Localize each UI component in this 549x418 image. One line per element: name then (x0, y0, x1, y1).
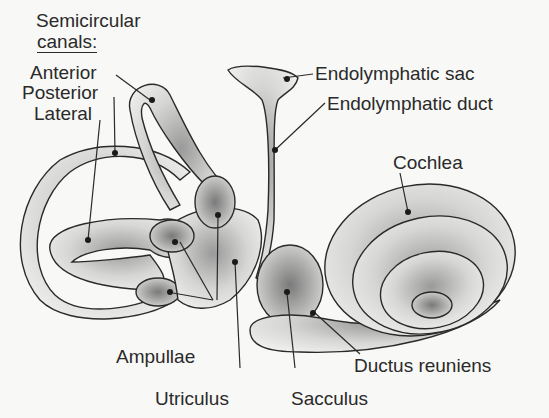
label-sacculus: Sacculus (291, 389, 368, 408)
label-cochlea: Cochlea (393, 153, 463, 172)
label-semicircular-sub: canals: (37, 32, 97, 53)
label-endolymphatic-duct: Endolymphatic duct (327, 94, 493, 113)
label-utriculus: Utriculus (155, 389, 229, 408)
label-lateral: Lateral (34, 104, 92, 123)
ampulla-lateral (150, 220, 194, 252)
label-semicircular-title: Semicircular (36, 11, 141, 30)
label-anterior: Anterior (30, 63, 97, 82)
label-posterior: Posterior (22, 83, 98, 102)
label-endolymphatic-sac: Endolymphatic sac (315, 64, 474, 83)
ampulla-anterior (195, 176, 235, 228)
label-ampullae: Ampullae (116, 347, 195, 366)
inner-ear-diagram: Semicircular canals: Anterior Posterior … (0, 0, 549, 418)
ampulla-lower (136, 278, 180, 306)
label-ductus-reuniens: Ductus reuniens (354, 356, 491, 375)
